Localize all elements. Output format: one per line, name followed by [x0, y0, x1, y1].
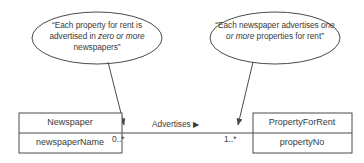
class-name-newspaper: Newspaper: [18, 117, 122, 127]
uml-class-diagram: “Each property for rent is advertised in…: [0, 0, 364, 163]
note-label-left: “Each property for rent is advertised in…: [36, 20, 158, 53]
association-name-label: Advertises ▶: [152, 119, 199, 129]
multiplicity-label-left: 0..*: [112, 134, 124, 144]
note-left-part-3: newspapers”: [74, 42, 121, 52]
note-right-part-3: properties for rent”: [254, 31, 324, 41]
association-name-text: Advertises: [152, 119, 191, 129]
multiplicity-label-right: 1..*: [224, 134, 236, 144]
association-direction-icon: ▶: [193, 119, 199, 129]
note-leader-line-right: [238, 62, 253, 125]
class-name-property-for-rent: PropertyForRent: [252, 117, 352, 127]
note-right-part-1: “Each newspaper advertises: [215, 20, 321, 30]
note-left-part-2-italic: zero or more: [98, 31, 144, 41]
note-label-right: “Each newspaper advertises one or more p…: [214, 20, 336, 42]
class-attribute-newspaper-name: newspaperName: [18, 137, 122, 147]
class-attribute-property-no: propertyNo: [252, 137, 352, 147]
